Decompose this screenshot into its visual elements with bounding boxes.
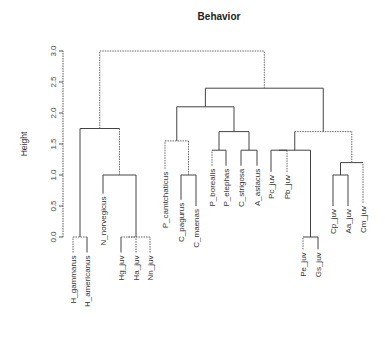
- leaf-label: N_norvegicus: [99, 197, 108, 246]
- leaf-label: H_americanus: [83, 256, 92, 308]
- leaf-label: Nn_juv: [146, 256, 155, 281]
- leaf-labels: H_gammarusH_americanusN_norvegicusHg_juv…: [69, 168, 368, 307]
- leaf-label: Pe_juv: [299, 252, 308, 276]
- leaf-label: Gs_juv: [314, 252, 323, 277]
- leaf-label: Ha_juv: [132, 256, 141, 281]
- y-tick-label: 1.0: [49, 169, 58, 181]
- leaf-label: Cm_juv: [359, 206, 368, 233]
- leaf-label: A_astacus: [253, 169, 262, 206]
- y-tick-label: 1.5: [49, 138, 58, 150]
- leaf-label: C_strigosa: [237, 168, 246, 207]
- leaf-label: Pb_juv: [283, 175, 292, 199]
- y-tick-label: 2.0: [49, 107, 58, 119]
- y-tick-label: 0.5: [49, 200, 58, 212]
- leaf-label: H_gammarus: [69, 256, 78, 304]
- leaf-label: Aa_juv: [344, 209, 353, 233]
- leaf-label: C_maenas: [192, 209, 201, 248]
- leaf-label: Pc_juv: [267, 175, 276, 199]
- leaf-label: Hg_juv: [117, 256, 126, 281]
- leaf-label: P_elephas: [222, 169, 231, 207]
- y-axis: 0.00.51.01.52.02.53.0: [49, 45, 63, 243]
- leaf-label: C_pagurus: [177, 203, 186, 242]
- dendrogram-tree: [73, 51, 363, 253]
- y-axis-label: Height: [19, 131, 29, 156]
- leaf-label: P_borealis: [208, 169, 217, 207]
- chart-title: Behavior: [198, 11, 241, 22]
- y-tick-label: 3.0: [49, 45, 58, 57]
- dendrogram-chart: Behavior 0.00.51.01.52.02.53.0 Height H_…: [0, 0, 385, 343]
- y-tick-label: 0.0: [49, 231, 58, 243]
- leaf-label: P_camtchaticus: [161, 172, 170, 228]
- y-tick-label: 2.5: [49, 76, 58, 88]
- leaf-label: Cp_juv: [329, 209, 338, 234]
